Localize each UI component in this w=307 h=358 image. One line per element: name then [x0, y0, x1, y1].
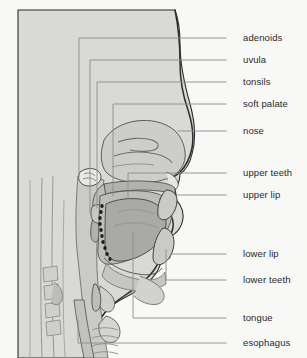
- label-upper-lip: upper lip: [243, 190, 280, 200]
- label-esophagus: esophagus: [243, 338, 290, 348]
- label-adenoids: adenoids: [243, 33, 282, 43]
- leader-lower-teeth: [166, 250, 226, 280]
- label-lower-teeth: lower teeth: [243, 275, 291, 285]
- label-upper-teeth: upper teeth: [243, 168, 292, 178]
- label-tonsils: tonsils: [243, 77, 271, 87]
- label-soft-palate: soft palate: [243, 99, 288, 109]
- label-nose: nose: [243, 126, 264, 136]
- label-lower-lip: lower lip: [243, 249, 279, 259]
- anatomy-diagram-page: adenoids uvula tonsils soft palate nose …: [0, 0, 307, 358]
- label-uvula: uvula: [243, 55, 266, 65]
- label-tongue: tongue: [243, 313, 273, 323]
